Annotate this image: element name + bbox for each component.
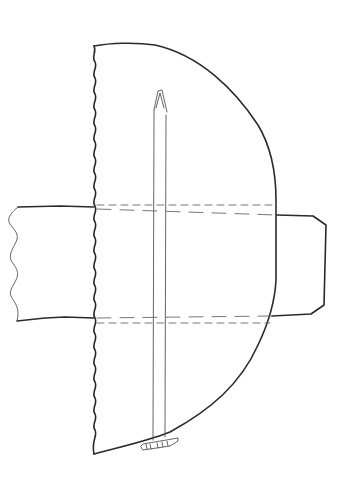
body-curved-outline	[94, 43, 276, 454]
rod-left-edge	[153, 110, 154, 440]
rod-right-edge	[165, 115, 166, 437]
band-right-end	[272, 215, 326, 316]
body-wavy-left-edge	[93, 46, 96, 454]
hidden-lines	[97, 205, 276, 323]
hidden-line-bottom-1	[97, 316, 272, 318]
vertical-rod	[153, 90, 167, 440]
band-left-wavy-end	[9, 207, 18, 321]
hidden-line-top-2	[97, 209, 276, 215]
horizontal-band	[9, 206, 326, 321]
band-left-top-edge	[18, 206, 94, 207]
diagram-canvas	[0, 0, 342, 496]
sketch-svg	[0, 0, 342, 496]
band-left-bottom-edge	[17, 317, 94, 321]
main-body	[93, 43, 276, 454]
